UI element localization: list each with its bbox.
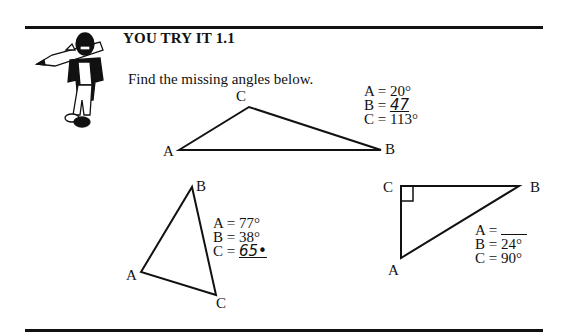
vertex-label-a: A [388,263,399,278]
angle-c-answer: 65• [239,242,267,260]
instruction-text: Find the missing angles below. [128,71,313,88]
vertex-label-a: A [126,268,137,283]
angle-list-acute: A = 77° B = 38° C = 65• [213,216,267,258]
angle-b-row: B = 47 [364,98,418,112]
angle-a-blank [501,222,527,235]
angle-a-row: A = 77° [213,216,267,230]
figures-canvas [0,0,567,336]
vertex-label-b: B [530,180,540,195]
vertex-label-c: C [383,180,393,195]
section-title: YOU TRY IT 1.1 [123,30,235,47]
angle-b-row: B = 24° [475,237,527,251]
angle-c-row: C = 90° [475,251,527,265]
angle-c-row: C = 65• [213,244,267,258]
vertex-label-a: A [163,144,174,159]
triangle-acute [141,187,216,295]
angle-c-row: C = 113° [364,112,418,126]
angle-a-row: A = [475,222,527,237]
angle-c-value: 113° [390,111,418,127]
vertex-label-c: C [216,296,226,311]
angle-list-obtuse: A = 20° B = 47 C = 113° [364,84,418,126]
angle-list-right: A = B = 24° C = 90° [475,222,527,265]
vertex-label-b: B [385,142,395,157]
triangle-obtuse [179,107,381,150]
vertex-label-c: C [236,89,246,104]
right-angle-marker [401,186,413,201]
pencil-carrying-character-icon [37,33,103,127]
vertex-label-b: B [196,179,206,194]
